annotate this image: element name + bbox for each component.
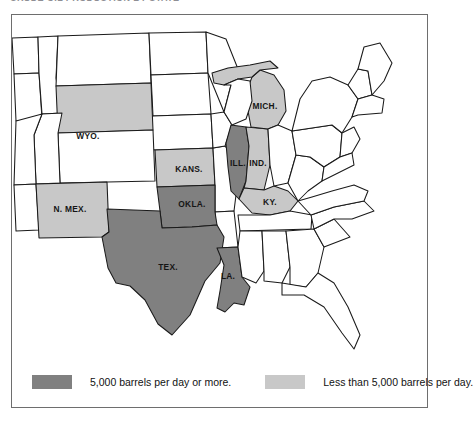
state-label-oklahoma: OKLA.: [178, 199, 205, 209]
page-title: CRUDE OIL PRODUCTION BY STATE: [10, 0, 310, 3]
state-tennessee: [238, 211, 312, 231]
state-colorado: [58, 130, 155, 183]
state-label-kansas: KANS.: [175, 164, 202, 174]
legend-swatch-high: [32, 375, 72, 389]
map-panel: WYO. KANS. N. MEX. MICH. ILL. IND. KY. O…: [11, 14, 428, 408]
legend-label-high: 5,000 barrels per day or more.: [90, 376, 231, 388]
state-texas: [102, 209, 224, 335]
legend-swatch-low: [265, 375, 305, 389]
map-legend: 5,000 barrels per day or more. Less than…: [12, 371, 427, 393]
state-arizona: [14, 184, 39, 231]
state-north-dakota: [149, 32, 208, 75]
us-choropleth-map: WYO. KANS. N. MEX. MICH. ILL. IND. KY. O…: [12, 15, 427, 363]
legend-label-low: Less than 5,000 barrels per day.: [323, 376, 473, 388]
state-label-kentucky: KY.: [263, 197, 277, 207]
state-wyoming: [56, 83, 153, 133]
state-washington: [12, 37, 39, 74]
state-label-texas: TEX.: [158, 262, 178, 272]
state-label-illinois: ILL.: [230, 158, 246, 168]
state-oregon: [14, 73, 42, 121]
page-title-text: CRUDE OIL PRODUCTION BY STATE: [10, 0, 310, 3]
state-label-louisiana: LA.: [221, 271, 235, 281]
state-label-new-mexico: N. MEX.: [54, 204, 87, 214]
state-label-indiana: IND.: [249, 158, 267, 168]
state-mississippi: [238, 231, 264, 283]
legend-item-low: Less than 5,000 barrels per day.: [265, 375, 473, 389]
state-label-wyoming: WYO.: [76, 131, 99, 141]
legend-item-high: 5,000 barrels per day or more.: [32, 375, 231, 389]
state-montana: [56, 33, 151, 86]
state-label-michigan: MICH.: [253, 101, 278, 111]
state-south-dakota: [151, 73, 211, 116]
state-alabama: [262, 231, 290, 283]
map-stage: WYO. KANS. N. MEX. MICH. ILL. IND. KY. O…: [12, 15, 427, 363]
